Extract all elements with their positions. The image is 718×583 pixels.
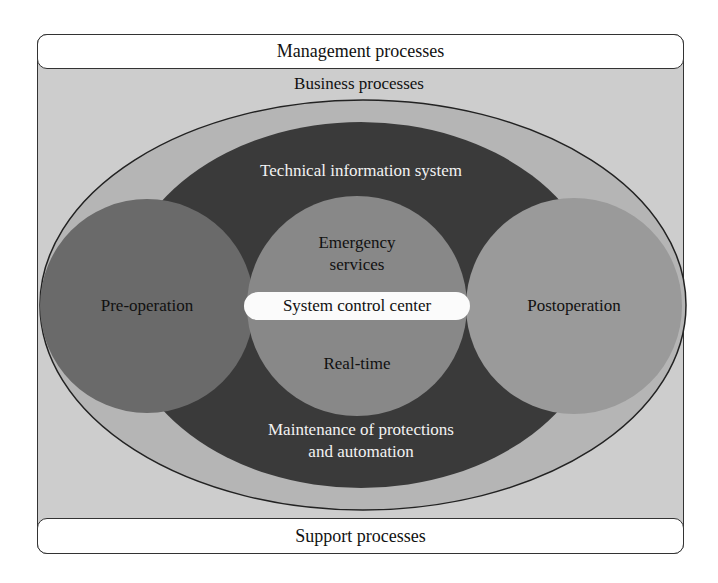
real-time-label: Real-time	[287, 353, 427, 375]
postoperation-label: Postoperation	[494, 295, 654, 317]
system-control-center-pill: System control center	[244, 292, 470, 320]
support-processes-label: Support processes	[295, 526, 425, 547]
support-processes-band: Support processes	[37, 518, 684, 554]
management-processes-label: Management processes	[277, 41, 444, 62]
business-processes-label: Business processes	[0, 74, 718, 94]
technical-information-system-label: Technical information system	[211, 160, 511, 182]
emergency-services-label: Emergency services	[287, 232, 427, 276]
pre-operation-label: Pre-operation	[62, 295, 232, 317]
management-processes-band: Management processes	[37, 34, 684, 69]
maintenance-label: Maintenance of protections and automatio…	[211, 419, 511, 463]
